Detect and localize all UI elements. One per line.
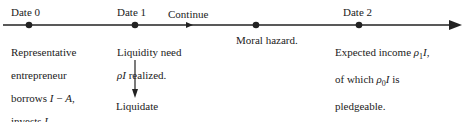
- text-run: realized.: [126, 69, 166, 81]
- text-run: borrows: [11, 92, 50, 104]
- date1-label: Date 1: [117, 6, 146, 18]
- text-run: Expected income: [335, 46, 414, 58]
- date0-label: Date 0: [11, 6, 40, 18]
- date1-description: Liquidity need ρI realized.: [117, 35, 181, 93]
- date1-desc-line: Liquidity need: [117, 47, 181, 59]
- date0-desc-line: borrows I − A,: [11, 93, 76, 105]
- liquidate-label: Liquidate: [116, 100, 158, 112]
- date0-desc-line: Representative: [11, 47, 76, 59]
- moral-hazard-description: Moral hazard.: [236, 35, 298, 47]
- date0-desc-line: entrepreneur: [11, 70, 76, 82]
- date0-description: Representative entrepreneur borrows I − …: [11, 35, 76, 122]
- math-var: A: [65, 92, 72, 104]
- text-run: −: [53, 92, 65, 104]
- date2-desc-line: Expected income ρ1I,: [335, 47, 430, 63]
- text-run: ,: [427, 46, 430, 58]
- date0-marker: [26, 22, 33, 29]
- text-run: is: [390, 73, 400, 85]
- text-run: of which: [335, 73, 377, 85]
- date2-description: Expected income ρ1I, of which ρ0I is ple…: [335, 35, 430, 122]
- date2-label: Date 2: [343, 6, 372, 18]
- text-run: invests: [11, 115, 44, 123]
- text-run: ,: [72, 92, 75, 104]
- text-run: .: [48, 115, 51, 123]
- moral-hazard-marker: [253, 22, 260, 29]
- math-var: ρI: [117, 69, 126, 81]
- date2-desc-line: of which ρ0I is: [335, 74, 430, 90]
- date2-desc-line: pledgeable.: [335, 101, 430, 113]
- date0-desc-line: invests I.: [11, 116, 76, 123]
- date1-desc-line: ρI realized.: [117, 70, 181, 82]
- timeline-arrowhead-icon: [449, 20, 462, 30]
- date2-marker: [356, 22, 363, 29]
- continue-label: Continue: [168, 8, 208, 20]
- continue-arrow-icon: [186, 22, 193, 28]
- date1-marker: [132, 22, 139, 29]
